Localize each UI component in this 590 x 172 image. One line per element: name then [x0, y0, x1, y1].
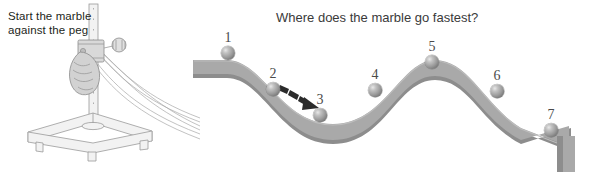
marble-3 [313, 108, 327, 122]
question-title: Where does the marble go fastest? [276, 10, 478, 25]
marble-5 [425, 55, 439, 69]
marble-label-6: 6 [494, 68, 501, 84]
figure-canvas: Start the marble against the peg Where d… [0, 0, 590, 172]
marble-track [185, 40, 590, 172]
thumb-screw-knob-icon [104, 38, 126, 52]
marble-label-3: 3 [317, 92, 324, 108]
marble-6 [490, 84, 504, 98]
triangular-base-icon [28, 113, 152, 161]
marble-1 [221, 46, 235, 60]
marble-4 [368, 83, 382, 97]
marble-label-1: 1 [225, 30, 232, 46]
marble-label-7: 7 [548, 107, 555, 123]
marble-label-5: 5 [429, 39, 436, 55]
marble-label-4: 4 [372, 67, 379, 83]
instruction-label: Start the marble against the peg [8, 10, 118, 37]
marble-2 [266, 82, 280, 96]
marble-label-2: 2 [270, 66, 277, 82]
marble-7 [544, 123, 558, 137]
